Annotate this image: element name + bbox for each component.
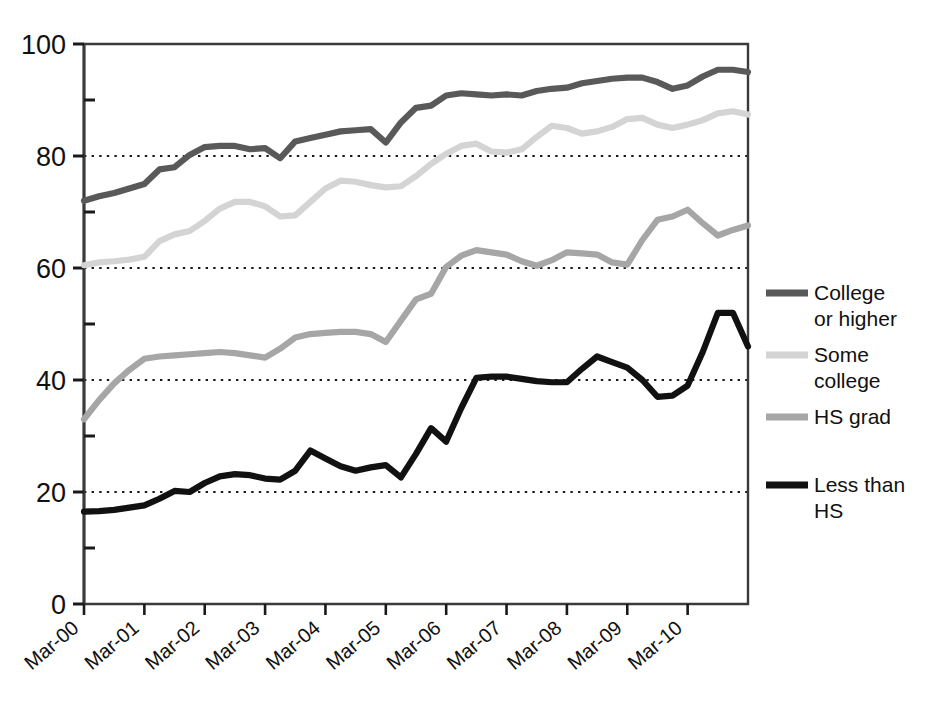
plot-frame	[84, 44, 748, 604]
x-tick-label: Mar-03	[201, 616, 264, 674]
chart-legend: Collegeor higherSomecollegeHS gradLess t…	[766, 281, 905, 522]
series-line	[84, 313, 748, 512]
y-tick-label: 0	[51, 590, 66, 620]
y-tick-label: 40	[36, 366, 66, 396]
line-chart-canvas: 020406080100 Mar-00Mar-01Mar-02Mar-03Mar…	[0, 0, 931, 715]
legend-label: Some	[814, 343, 869, 366]
x-tick-label: Mar-09	[563, 616, 626, 674]
legend-label-line2: or higher	[814, 307, 897, 330]
x-tick-label: Mar-02	[141, 616, 204, 674]
legend-label: Less than	[814, 473, 905, 496]
y-tick-label: 80	[36, 142, 66, 172]
y-tick-label: 60	[36, 254, 66, 284]
legend-item[interactable]: Less thanHS	[766, 473, 905, 522]
legend-item[interactable]: Collegeor higher	[766, 281, 897, 330]
data-series-group	[84, 70, 748, 512]
y-tick-label: 20	[36, 478, 66, 508]
chart-figure: 020406080100 Mar-00Mar-01Mar-02Mar-03Mar…	[0, 0, 931, 715]
legend-label: HS grad	[814, 405, 891, 428]
x-tick-label: Mar-04	[261, 616, 324, 674]
x-tick-label: Mar-05	[322, 616, 385, 674]
x-tick-label: Mar-01	[80, 616, 143, 674]
x-tick-label: Mar-07	[442, 616, 505, 674]
legend-label-line2: HS	[814, 499, 843, 522]
series-line	[84, 70, 748, 201]
x-axis: Mar-00Mar-01Mar-02Mar-03Mar-04Mar-05Mar-…	[20, 604, 688, 674]
grid-lines	[84, 156, 748, 492]
series-line	[84, 111, 748, 265]
x-tick-label: Mar-06	[382, 616, 445, 674]
legend-item[interactable]: Somecollege	[766, 343, 881, 392]
legend-item[interactable]: HS grad	[766, 405, 891, 428]
legend-label: College	[814, 281, 885, 304]
y-tick-label: 100	[21, 30, 66, 60]
x-tick-label: Mar-08	[503, 616, 566, 674]
x-tick-label: Mar-10	[624, 616, 687, 674]
legend-label-line2: college	[814, 369, 881, 392]
x-tick-label: Mar-00	[20, 616, 83, 674]
